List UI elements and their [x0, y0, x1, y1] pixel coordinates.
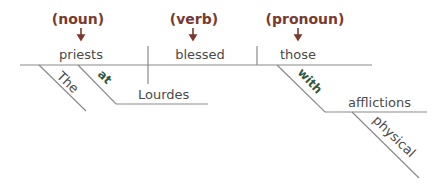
sentence-diagram: (noun) (verb) (pronoun) priests blessed …	[0, 0, 447, 190]
verb-word: blessed	[175, 47, 225, 62]
object-word: those	[280, 47, 316, 62]
subject-word: priests	[59, 47, 103, 62]
object-arrow-icon	[295, 28, 301, 40]
verb-pos-label: (verb)	[170, 11, 218, 27]
subject-pos-label: (noun)	[52, 11, 104, 27]
article-word: The	[53, 68, 82, 96]
subject-prep-object: Lourdes	[138, 87, 190, 102]
object-preposition: with	[295, 65, 325, 96]
object-pos-label: (pronoun)	[266, 11, 345, 27]
subject-preposition: at	[95, 67, 115, 87]
subject-arrow-icon	[78, 28, 84, 40]
object-prep-object: afflictions	[348, 95, 411, 110]
verb-arrow-icon	[190, 28, 196, 40]
